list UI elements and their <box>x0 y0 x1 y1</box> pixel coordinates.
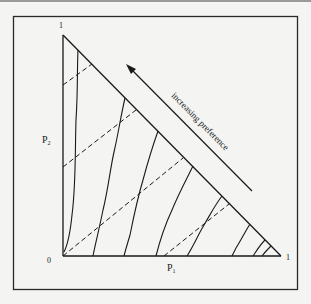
indifference-curve <box>64 50 78 252</box>
indifference-curves <box>64 50 271 256</box>
indifference-curve <box>187 196 222 256</box>
origin-label: 0 <box>47 256 51 265</box>
indifference-curve <box>262 246 271 256</box>
probability-simplex-diagram: 1 0 1 P2 P1 increasing preference <box>0 0 311 304</box>
simplex-hypotenuse <box>63 35 281 256</box>
increasing-preference-label: increasing preference <box>170 90 231 152</box>
dashed-line <box>63 110 136 167</box>
y-max-label: 1 <box>59 21 63 30</box>
x-axis-label: P1 <box>167 262 176 274</box>
x-max-label: 1 <box>286 253 290 262</box>
figure-frame <box>14 17 298 290</box>
indifference-curve <box>156 166 193 256</box>
dashed-line <box>164 204 229 256</box>
dashed-line <box>63 158 183 256</box>
indifference-curve <box>93 98 125 256</box>
indifference-curve <box>232 224 250 256</box>
indifference-curve <box>124 131 158 256</box>
indifference-curve <box>253 240 265 256</box>
y-axis-label: P2 <box>42 134 51 146</box>
dashed-lines <box>63 64 229 256</box>
